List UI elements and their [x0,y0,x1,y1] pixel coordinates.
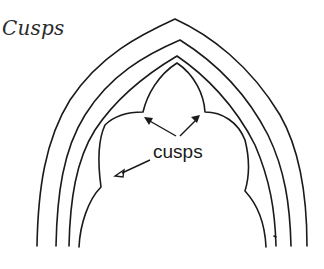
base-tick [274,236,276,237]
cusped-arch-diagram: cusps [0,0,324,269]
arrow-lower-left [115,160,150,177]
arrow-upper-left [144,117,176,136]
arrow-upper-right [180,115,200,136]
cusps-label: cusps [153,141,203,162]
